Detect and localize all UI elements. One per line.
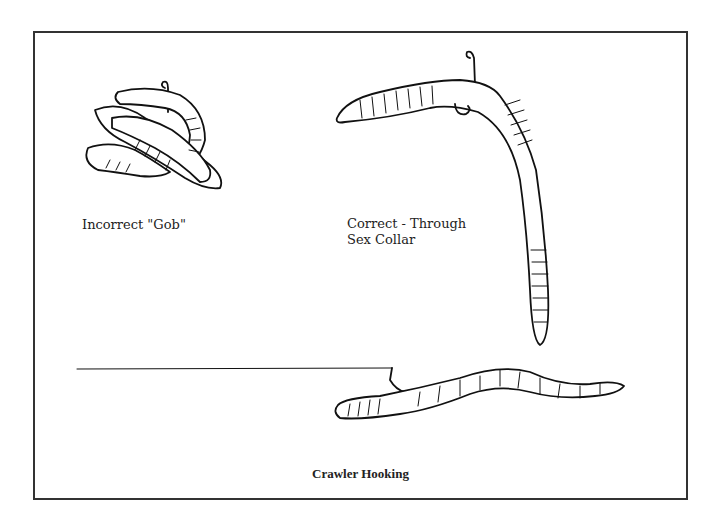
correct-label-line1: Correct - Through bbox=[347, 216, 466, 232]
incorrect-gob-label: Incorrect "Gob" bbox=[82, 217, 186, 233]
correct-collar-worm-icon bbox=[337, 52, 549, 345]
incorrect-gob-worm-icon bbox=[86, 82, 221, 189]
correct-label-line2: Sex Collar bbox=[347, 232, 415, 248]
figure-caption: Crawler Hooking bbox=[312, 466, 409, 482]
line-rigged-worm-icon bbox=[77, 368, 624, 419]
worm-illustrations bbox=[0, 0, 720, 531]
